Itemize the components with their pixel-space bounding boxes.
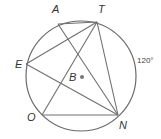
label-t: T <box>98 3 106 15</box>
label-n: N <box>119 119 127 131</box>
chord-tn <box>97 22 118 115</box>
chord-at <box>58 22 97 24</box>
label-o: O <box>27 111 36 123</box>
chords-group <box>26 22 118 115</box>
label-a: A <box>51 3 59 15</box>
arc-measure-label: 120° <box>137 56 154 65</box>
center-point-b <box>80 75 84 79</box>
label-e: E <box>15 58 23 70</box>
circle-diagram: A T E B O N 120° <box>0 0 161 139</box>
chord-to <box>42 22 97 115</box>
label-b: B <box>69 71 76 83</box>
